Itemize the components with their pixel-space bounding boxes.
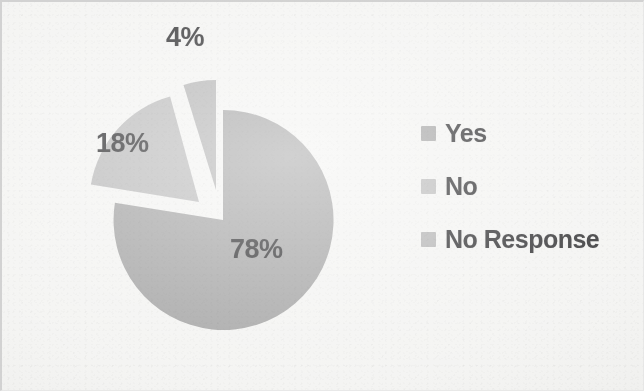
legend-label-no-response: No Response: [445, 227, 599, 252]
chart-legend: Yes No No Response: [421, 122, 599, 250]
legend-swatch-yes: [421, 126, 436, 141]
pie-label-no-response: 4%: [166, 22, 204, 53]
pie-chart-figure: 4% 18% 78% Yes No No Response: [0, 0, 644, 391]
legend-item-yes[interactable]: Yes: [421, 122, 599, 144]
legend-item-no[interactable]: No: [421, 175, 599, 197]
pie-label-no: 18%: [96, 128, 149, 159]
legend-label-yes: Yes: [445, 121, 487, 146]
legend-swatch-no-response: [421, 232, 436, 247]
legend-item-no-response[interactable]: No Response: [421, 228, 599, 250]
pie-label-yes: 78%: [230, 234, 283, 265]
legend-swatch-no: [421, 179, 436, 194]
legend-label-no: No: [445, 174, 477, 199]
